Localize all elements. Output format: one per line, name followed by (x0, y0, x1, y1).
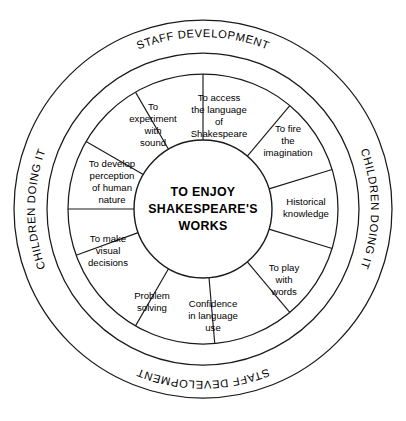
segment-line: the language (191, 104, 246, 115)
segment-line: To play (269, 262, 300, 273)
segment-line: experiment (129, 113, 177, 124)
segment-label-problem-solving: Problem solving (134, 290, 170, 313)
segment-line: To fire (275, 123, 301, 134)
segment-line: Historical (286, 196, 325, 207)
segment-line: with (274, 274, 292, 285)
segment-line: of (215, 116, 223, 127)
segment-line: perception (90, 170, 135, 181)
segment-line: To access (198, 92, 241, 103)
segment-line: Confidence (189, 298, 238, 309)
segment-line: imagination (263, 147, 312, 158)
segment-label-historical-knowledge: Historical knowledge (283, 196, 329, 219)
concentric-wheel-diagram: STAFF DEVELOPMENT STAFF DEVELOPMENT CHIL… (0, 0, 406, 421)
segment-line: sound (140, 137, 166, 148)
segment-line: Problem (134, 290, 170, 301)
segment-line: To (148, 101, 158, 112)
segment-line: decisions (88, 257, 128, 268)
center-line-2: SHAKESPEARE'S (148, 202, 257, 216)
segment-line: of human (92, 182, 132, 193)
segment-line: in language (188, 310, 238, 321)
segment-line: nature (98, 194, 125, 205)
segment-line: the (281, 135, 294, 146)
center-line-1: TO ENJOY (171, 185, 236, 199)
segment-line: visual (96, 245, 121, 256)
wheel-svg: STAFF DEVELOPMENT STAFF DEVELOPMENT CHIL… (0, 0, 406, 421)
segment-line: To make (90, 233, 126, 244)
center-line-3: WORKS (179, 219, 228, 233)
segment-line: solving (137, 302, 167, 313)
segment-line: with (143, 125, 161, 136)
segment-line: Shakespeare (191, 128, 248, 139)
segment-line: knowledge (283, 208, 329, 219)
segment-line: To develop (89, 158, 135, 169)
segment-line: use (205, 322, 220, 333)
segment-line: words (270, 286, 297, 297)
